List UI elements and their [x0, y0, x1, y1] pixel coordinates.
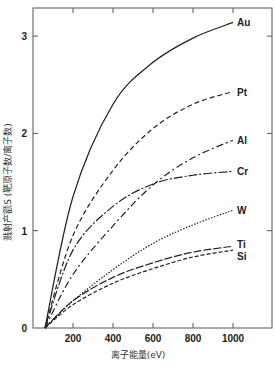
curve-ti: [45, 246, 233, 328]
x-tick-label: 600: [145, 333, 162, 344]
curve-si: [45, 250, 233, 328]
x-tick-label: 200: [65, 333, 82, 344]
y-tick-label: 3: [21, 31, 27, 42]
x-tick-label: 400: [105, 333, 122, 344]
series-label-al: Al: [237, 135, 247, 146]
series-curves: [45, 22, 233, 328]
curve-pt: [45, 92, 233, 328]
series-labels: AuPtAlCrWTiSi: [237, 17, 250, 262]
y-tick-label: 2: [21, 128, 27, 139]
y-tick-label: 0: [21, 323, 27, 334]
curve-au: [45, 22, 233, 328]
x-tick-label: 800: [185, 333, 202, 344]
curve-w: [45, 210, 233, 328]
series-label-au: Au: [237, 17, 250, 28]
axis-ticks: 20040060080010000123: [21, 8, 272, 344]
series-label-w: W: [237, 205, 247, 216]
series-label-cr: Cr: [237, 166, 248, 177]
x-axis-title: 离子能量(eV): [111, 349, 166, 360]
x-tick-label: 1000: [222, 333, 245, 344]
series-label-si: Si: [237, 251, 247, 262]
series-label-ti: Ti: [237, 239, 246, 250]
y-tick-label: 1: [21, 226, 27, 237]
y-axis-title: 溅射产额S (靶原子数/离子数): [2, 123, 13, 241]
series-label-pt: Pt: [237, 87, 248, 98]
sputter-yield-chart: 20040060080010000123 AuPtAlCrWTiSi 离子能量(…: [0, 0, 275, 367]
